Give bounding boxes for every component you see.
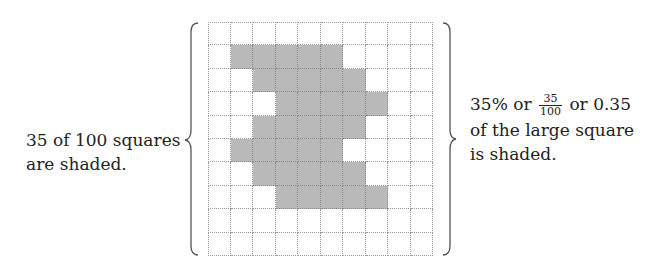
shaded-square	[231, 45, 254, 68]
unshaded-square	[321, 233, 344, 256]
fraction: 35 100	[539, 93, 562, 118]
unshaded-square	[276, 233, 299, 256]
unshaded-square	[388, 116, 411, 139]
unshaded-square	[253, 22, 276, 45]
unshaded-square	[253, 92, 276, 115]
unshaded-square	[208, 162, 231, 185]
shaded-square	[343, 92, 366, 115]
unshaded-square	[231, 69, 254, 92]
shaded-square	[276, 139, 299, 162]
right-caption-line2: of the large square	[470, 118, 634, 142]
unshaded-square	[388, 69, 411, 92]
unshaded-square	[366, 45, 389, 68]
shaded-square	[298, 139, 321, 162]
shaded-square	[298, 69, 321, 92]
shaded-square	[276, 45, 299, 68]
unshaded-square	[231, 92, 254, 115]
left-caption-line2: are shaded.	[26, 152, 180, 176]
unshaded-square	[208, 22, 231, 45]
unshaded-square	[231, 162, 254, 185]
unshaded-square	[411, 209, 434, 232]
unshaded-square	[411, 45, 434, 68]
shaded-square	[298, 186, 321, 209]
left-brace	[184, 22, 200, 256]
shaded-square	[343, 186, 366, 209]
percent-text: 35% or	[470, 94, 532, 114]
shaded-square	[253, 139, 276, 162]
unshaded-square	[366, 69, 389, 92]
shaded-square	[321, 162, 344, 185]
shaded-square	[276, 92, 299, 115]
shaded-square	[276, 116, 299, 139]
unshaded-square	[208, 116, 231, 139]
hundred-square-grid	[208, 22, 433, 256]
unshaded-square	[276, 209, 299, 232]
shaded-square	[321, 116, 344, 139]
shaded-square	[343, 162, 366, 185]
unshaded-square	[366, 209, 389, 232]
shaded-square	[321, 69, 344, 92]
unshaded-square	[321, 209, 344, 232]
unshaded-square	[366, 139, 389, 162]
unshaded-square	[411, 162, 434, 185]
unshaded-square	[388, 209, 411, 232]
unshaded-square	[208, 69, 231, 92]
unshaded-square	[208, 92, 231, 115]
unshaded-square	[411, 22, 434, 45]
unshaded-square	[388, 45, 411, 68]
shaded-square	[321, 139, 344, 162]
unshaded-square	[208, 186, 231, 209]
unshaded-square	[343, 45, 366, 68]
unshaded-square	[231, 186, 254, 209]
right-caption-line1: 35% or 35 100 or 0.35	[470, 92, 634, 118]
unshaded-square	[253, 186, 276, 209]
unshaded-square	[231, 22, 254, 45]
shaded-square	[253, 162, 276, 185]
unshaded-square	[411, 116, 434, 139]
shaded-square	[276, 162, 299, 185]
unshaded-square	[231, 233, 254, 256]
shaded-square	[276, 186, 299, 209]
left-caption-line1: 35 of 100 squares	[26, 128, 180, 152]
unshaded-square	[343, 209, 366, 232]
shaded-square	[321, 92, 344, 115]
shaded-square	[253, 45, 276, 68]
unshaded-square	[388, 233, 411, 256]
unshaded-square	[411, 92, 434, 115]
unshaded-square	[366, 116, 389, 139]
unshaded-square	[343, 139, 366, 162]
shaded-square	[253, 69, 276, 92]
shaded-square	[231, 139, 254, 162]
unshaded-square	[343, 22, 366, 45]
unshaded-square	[366, 233, 389, 256]
unshaded-square	[231, 116, 254, 139]
unshaded-square	[231, 209, 254, 232]
unshaded-square	[298, 209, 321, 232]
unshaded-square	[343, 233, 366, 256]
shaded-square	[253, 116, 276, 139]
unshaded-square	[411, 233, 434, 256]
left-caption: 35 of 100 squares are shaded.	[26, 128, 180, 176]
unshaded-square	[208, 139, 231, 162]
unshaded-square	[253, 209, 276, 232]
shaded-square	[298, 45, 321, 68]
unshaded-square	[208, 209, 231, 232]
unshaded-square	[321, 22, 344, 45]
shaded-square	[366, 186, 389, 209]
right-caption-line3: is shaded.	[470, 142, 634, 166]
right-caption: 35% or 35 100 or 0.35 of the large squar…	[470, 92, 634, 166]
shaded-square	[298, 116, 321, 139]
unshaded-square	[411, 139, 434, 162]
decimal-text: or 0.35	[569, 94, 631, 114]
shaded-square	[276, 69, 299, 92]
unshaded-square	[411, 186, 434, 209]
unshaded-square	[388, 92, 411, 115]
shaded-square	[343, 69, 366, 92]
unshaded-square	[366, 162, 389, 185]
right-brace	[441, 22, 457, 256]
shaded-square	[321, 186, 344, 209]
unshaded-square	[253, 233, 276, 256]
unshaded-square	[298, 22, 321, 45]
shaded-square	[298, 92, 321, 115]
unshaded-square	[298, 233, 321, 256]
